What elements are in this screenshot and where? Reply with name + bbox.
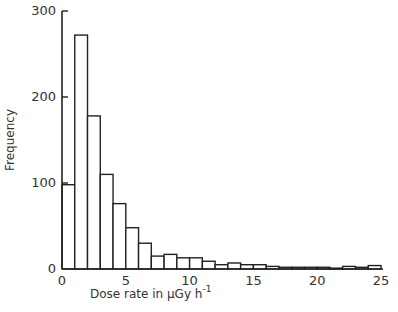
histogram-bar xyxy=(228,263,241,269)
x-tick-label: 20 xyxy=(309,273,326,288)
histogram-bar xyxy=(88,116,101,269)
x-tick-label: 25 xyxy=(373,273,390,288)
histogram-bar xyxy=(202,261,215,269)
x-axis-label-superscript: -1 xyxy=(202,284,211,294)
y-tick-label: 200 xyxy=(31,89,56,104)
histogram-bars xyxy=(62,35,381,269)
x-ticks: 0510152025 xyxy=(58,273,389,288)
histogram-bar xyxy=(139,243,152,269)
histogram-bar xyxy=(190,258,203,269)
x-tick-label: 10 xyxy=(181,273,198,288)
x-tick-label: 5 xyxy=(122,273,130,288)
histogram-bar xyxy=(126,228,139,269)
x-tick-label: 0 xyxy=(58,273,66,288)
x-axis-label: Dose rate in µGy h-1 xyxy=(90,284,211,301)
histogram-bar xyxy=(151,256,164,269)
histogram-bar xyxy=(100,174,113,269)
histogram-bar xyxy=(62,185,75,269)
x-tick-label: 15 xyxy=(245,273,262,288)
y-tick-label: 0 xyxy=(48,261,56,276)
histogram-bar xyxy=(164,254,177,269)
y-axis-label: Frequency xyxy=(3,109,17,171)
x-axis-label-main: Dose rate in µGy h xyxy=(90,287,202,301)
histogram-bar xyxy=(113,204,126,269)
y-tick-label: 300 xyxy=(31,3,56,18)
histogram-bar xyxy=(177,258,190,269)
histogram-bar xyxy=(75,35,88,269)
histogram-chart: 0100200300 0510152025 Frequency Dose rat… xyxy=(0,0,398,312)
y-tick-label: 100 xyxy=(31,175,56,190)
